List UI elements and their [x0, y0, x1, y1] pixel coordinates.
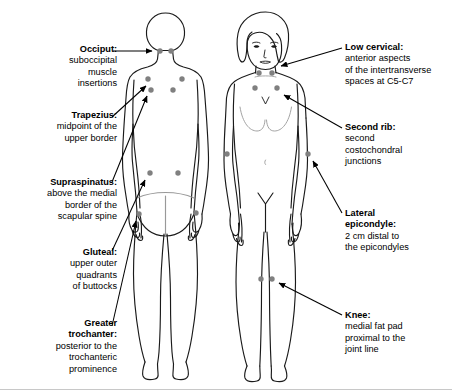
anterior-pubic-line [258, 193, 273, 204]
posterior-head-outline [146, 13, 184, 51]
anterior-torso-left [232, 126, 239, 224]
anterior-left-arm-inner [233, 84, 240, 208]
label-lateral-epicondyle-line-1: 2 cm distal to [345, 231, 450, 242]
label-greater-trochanter-line-2: trochanteric [10, 352, 117, 363]
anterior-left-hand [230, 214, 243, 246]
anterior-left-leg-inner [260, 232, 264, 366]
label-gluteal-title: Gluteal: [10, 247, 117, 258]
posterior-right-leg-inner [167, 234, 174, 364]
anterior-left-eye [254, 45, 260, 48]
anterior-right-leg-inner [267, 232, 271, 366]
posterior-left-leg-inner [158, 234, 165, 364]
label-greater-trochanter-line-1: posterior to the [10, 341, 117, 352]
posterior-right-arm-outer [202, 118, 209, 214]
anterior-right-hand [288, 214, 301, 246]
tender-point-greater-trochanter-left [136, 211, 141, 216]
posterior-right-arm-inner [191, 80, 198, 208]
leader-line-low-cervical [281, 48, 342, 66]
tender-point-occiput-right [168, 48, 173, 53]
label-gluteal: Gluteal: upper outer quadrants of buttoc… [10, 247, 117, 293]
anterior-left-breast [240, 107, 265, 131]
label-supraspinatus: Supraspinatus: above the medial border o… [6, 177, 117, 223]
tender-point-supraspinatus-left [148, 87, 153, 92]
tender-point-supraspinatus-right [170, 87, 175, 92]
leader-line-knee [279, 283, 342, 315]
posterior-left-arm-outer [123, 118, 130, 214]
label-lateral-epicondyle: Lateral epicondyle: 2 cm distal to the e… [345, 208, 450, 254]
label-greater-trochanter-title-1: Greater [10, 318, 117, 329]
label-trapezius-line-2: upper border [10, 133, 117, 144]
leader-line-supraspinatus [112, 96, 147, 182]
posterior-right-shoulder [173, 50, 207, 118]
label-second-rib-line-1: second [345, 133, 450, 144]
tender-point-gluteal-left [147, 170, 152, 175]
anterior-sternal-notch [262, 97, 269, 104]
label-trapezius-line-1: midpoint of the [10, 121, 117, 132]
anterior-right-foot [271, 366, 287, 381]
label-occiput-line-2: muscle [10, 67, 117, 78]
tender-point-trapezius-right [179, 76, 184, 81]
tender-point-knee-left [258, 276, 263, 281]
label-low-cervical-line-2: of the intertransverse [345, 65, 450, 76]
label-trapezius: Trapezius: midpoint of the upper border [10, 110, 117, 144]
posterior-figure [123, 13, 209, 379]
label-second-rib-line-3: junctions [345, 156, 450, 167]
label-gluteal-line-3: of buttocks [10, 281, 117, 292]
tender-point-lateral-epicondyle-left [224, 151, 229, 156]
label-gluteal-line-2: quadrants [10, 270, 117, 281]
anterior-navel [265, 160, 266, 165]
label-gluteal-line-1: upper outer [10, 258, 117, 269]
label-knee-line-2: proximal to the [345, 333, 450, 344]
label-greater-trochanter: Greater trochanter: posterior to the tro… [10, 318, 117, 375]
anterior-left-foot [245, 366, 261, 381]
anterior-left-arm-outer [224, 118, 231, 214]
anterior-clavicle [255, 76, 276, 77]
label-lateral-epicondyle-title-1: Lateral [345, 208, 450, 219]
anterior-mouth [261, 61, 271, 63]
posterior-left-arm-inner [133, 80, 140, 208]
anterior-right-arm-outer [301, 118, 308, 214]
label-knee-line-1: medial fat pad [345, 321, 450, 332]
label-knee-title: Knee: [345, 310, 450, 321]
label-occiput: Occiput: suboccipital muscle insertions [10, 44, 117, 90]
leader-line-second-rib [284, 95, 342, 128]
label-lateral-epicondyle-line-2: the epicondyles [345, 242, 450, 253]
posterior-left-foot [143, 362, 159, 379]
posterior-right-foot [173, 362, 189, 379]
tender-points-diagram: Occiput: suboccipital muscle insertions … [0, 0, 452, 390]
label-supraspinatus-line-3: scapular spine [6, 211, 117, 222]
label-greater-trochanter-title-2: trochanter: [10, 329, 117, 340]
label-trapezius-title: Trapezius: [10, 110, 117, 121]
tender-point-occiput-left [157, 48, 162, 53]
label-second-rib-title: Second rib: [345, 122, 450, 133]
tender-point-low-cervical-left [256, 70, 261, 75]
anterior-torso-right [292, 126, 299, 224]
label-knee: Knee: medial fat pad proximal to the joi… [345, 310, 450, 356]
anterior-left-eyebrow [253, 42, 261, 43]
tender-point-lateral-epicondyle-right [305, 151, 310, 156]
label-low-cervical: Low cervical: anterior aspects of the in… [345, 42, 450, 88]
label-supraspinatus-line-2: border of the [6, 200, 117, 211]
label-occiput-line-1: suboccipital [10, 55, 117, 66]
label-supraspinatus-title: Supraspinatus: [6, 177, 117, 188]
anterior-figure [224, 12, 308, 381]
tender-point-knee-right [269, 276, 274, 281]
tender-point-greater-trochanter-right [193, 210, 198, 215]
tender-point-low-cervical-right [269, 70, 274, 75]
anterior-right-breast [267, 107, 292, 131]
tender-point-second-rib-left [252, 85, 257, 90]
label-lateral-epicondyle-title-2: epicondyle: [345, 219, 450, 230]
label-greater-trochanter-line-3: prominence [10, 364, 117, 375]
tender-point-trapezius-left [145, 76, 150, 81]
tender-point-second-rib-right [274, 85, 279, 90]
label-occiput-line-3: insertions [10, 78, 117, 89]
label-low-cervical-line-1: anterior aspects [345, 53, 450, 64]
label-supraspinatus-line-1: above the medial [6, 188, 117, 199]
label-knee-line-3: joint line [345, 344, 450, 355]
tender-point-gluteal-right [175, 170, 180, 175]
label-low-cervical-line-3: spaces at C5-C7 [345, 76, 450, 87]
label-second-rib-line-2: costochondral [345, 145, 450, 156]
label-low-cervical-title: Low cervical: [345, 42, 450, 53]
leader-lines-group [112, 48, 342, 326]
label-second-rib: Second rib: second costochondral junctio… [345, 122, 450, 168]
